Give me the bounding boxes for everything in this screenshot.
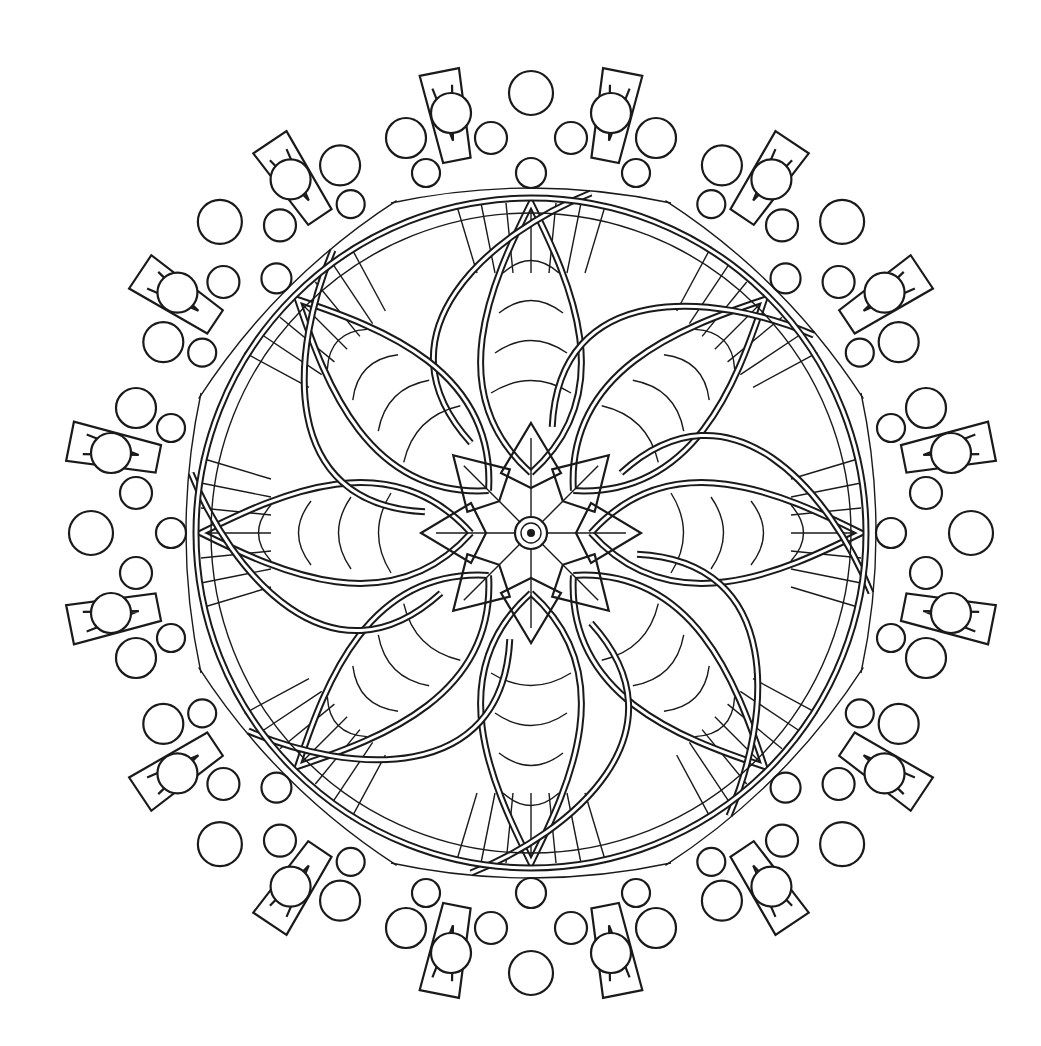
- mandala-artwork: [0, 0, 1041, 1046]
